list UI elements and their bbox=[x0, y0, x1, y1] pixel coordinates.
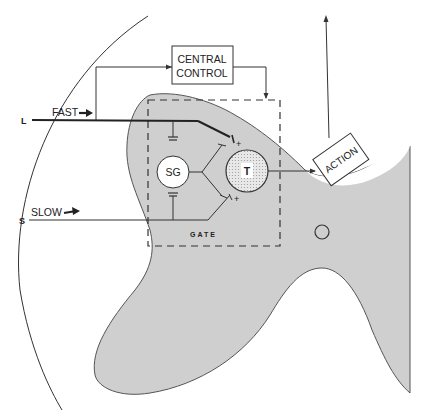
arrow-into-gate bbox=[264, 93, 269, 99]
s-fiber-label: S bbox=[19, 216, 25, 226]
gate-control-diagram: GATE CENTRAL CONTROL L FAST SG S SLOW + … bbox=[0, 0, 429, 419]
arrow-into-action bbox=[310, 169, 316, 174]
t-label: T bbox=[244, 165, 251, 177]
upper-plus-label: + bbox=[236, 139, 241, 149]
tissue-shape bbox=[94, 94, 410, 395]
l-fiber-label: L bbox=[21, 116, 27, 126]
fast-arrowhead bbox=[86, 109, 93, 117]
arrow-up-output bbox=[324, 15, 329, 22]
gate-label: GATE bbox=[190, 231, 217, 238]
central-control-label-2: CONTROL bbox=[176, 67, 227, 79]
slow-arrowhead bbox=[72, 207, 80, 215]
sg-label: SG bbox=[165, 166, 180, 178]
arrow-into-control bbox=[166, 65, 172, 70]
control-to-gate-line bbox=[233, 67, 266, 98]
l-fiber-line bbox=[32, 120, 198, 121]
central-control-label-1: CENTRAL bbox=[177, 53, 226, 65]
lower-plus-label: + bbox=[234, 194, 239, 204]
action-output-line bbox=[326, 18, 329, 138]
fast-label: FAST bbox=[52, 106, 79, 118]
slow-label: SLOW bbox=[31, 206, 62, 218]
